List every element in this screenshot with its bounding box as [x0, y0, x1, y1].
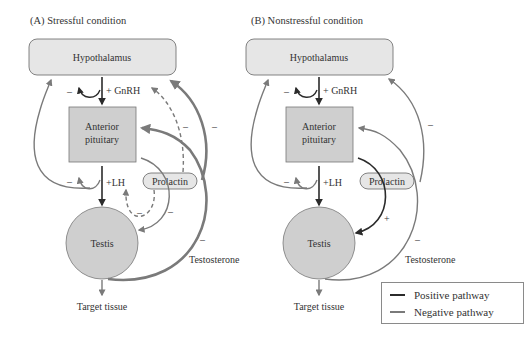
legend-positive-label: Positive pathway — [414, 289, 489, 301]
testosterone-label: Testosterone — [189, 254, 240, 265]
legend: Positive pathway Negative pathway — [381, 282, 524, 324]
panel-a-title: (A) Stressful condition — [30, 15, 127, 27]
lh-short-loop-minus: – — [66, 176, 73, 187]
lh-short-loop-minus: – — [283, 176, 290, 187]
prolactin-testis-minus: – — [167, 206, 174, 217]
prolactin-to-testis-arrow — [356, 158, 386, 233]
testosterone-to-hypothalamus-arrow — [389, 79, 424, 182]
target-tissue-label: Target tissue — [77, 301, 128, 312]
testosterone-hypothalamus-minus: – — [427, 119, 434, 130]
prolactin-gnrh-minus: – — [182, 121, 189, 132]
testosterone-hypothalamus-minus: – — [211, 121, 218, 132]
legend-negative: Negative pathway — [390, 304, 494, 320]
testis-label: Testis — [307, 238, 330, 249]
lh-label: +LH — [323, 177, 342, 188]
prolactin-label: Prolactin — [369, 176, 405, 187]
prolactin-testis-plus: + — [384, 213, 390, 224]
prolactin-label: Prolactin — [152, 176, 188, 187]
gnrh-label: + GnRH — [323, 85, 357, 96]
positive-swatch — [390, 294, 405, 297]
panel-a: (A) Stressful condition Hypothalamus Ant… — [29, 15, 240, 312]
panel-b-title: (B) Nonstressful condition — [251, 15, 364, 27]
hypothalamus-label: Hypothalamus — [73, 52, 131, 63]
lh-label: +LH — [106, 177, 125, 188]
lh-short-loop-arrow — [296, 178, 317, 189]
testosterone-to-hypothalamus-arrow — [171, 81, 206, 180]
legend-negative-label: Negative pathway — [414, 306, 494, 318]
testosterone-pituitary-minus: – — [414, 234, 421, 245]
testis-label: Testis — [90, 238, 113, 249]
anterior-pituitary-label-1: Anterior — [302, 121, 337, 132]
anterior-pituitary-label-2: pituitary — [85, 134, 119, 145]
gnrh-label: + GnRH — [106, 85, 140, 96]
hypothalamus-label: Hypothalamus — [290, 52, 348, 63]
panel-b: (B) Nonstressful condition Hypothalamus … — [246, 15, 456, 312]
gnrh-short-loop-minus: – — [283, 86, 290, 97]
gnrh-short-loop-arrow — [79, 88, 100, 97]
testosterone-pituitary-minus: – — [199, 234, 206, 245]
target-tissue-label: Target tissue — [294, 301, 345, 312]
testosterone-label: Testosterone — [405, 254, 456, 265]
gnrh-short-loop-arrow — [296, 88, 317, 97]
anterior-pituitary-label-2: pituitary — [302, 134, 336, 145]
prolactin-lh-minus: – — [136, 207, 143, 218]
anterior-pituitary-label-1: Anterior — [85, 121, 120, 132]
legend-positive: Positive pathway — [390, 287, 489, 303]
gnrh-short-loop-minus: – — [66, 86, 73, 97]
lh-short-loop-arrow — [79, 178, 100, 189]
negative-swatch — [390, 311, 405, 314]
